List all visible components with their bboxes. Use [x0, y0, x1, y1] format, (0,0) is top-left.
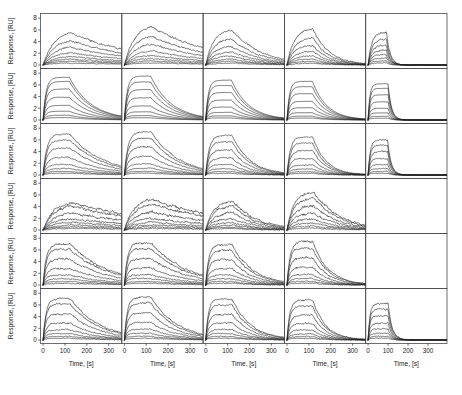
panel-r3-c1: [41, 124, 122, 179]
curve-c5: [368, 54, 447, 65]
panel-curves: [43, 203, 122, 231]
panel-curves: [43, 33, 122, 65]
x-axis-col1: 0100200300Time, [s]: [41, 344, 114, 368]
panel-frame: [284, 124, 365, 179]
x-tick-label: 100: [222, 347, 233, 354]
y-tick-label: 4: [33, 313, 37, 320]
x-tick-label: 0: [204, 347, 208, 354]
curve-c2: [124, 82, 203, 120]
x-axis-title: Time, [s]: [394, 360, 419, 368]
y-axis-row2: 02468Response, [RU]: [7, 69, 41, 123]
panel-frame: [366, 69, 447, 124]
panel-frame: [366, 234, 447, 289]
curve-c1: [206, 299, 285, 341]
curve-c8: [43, 63, 122, 65]
panel-r5-c1: [41, 234, 122, 289]
y-axis-title: Response, [RU]: [7, 293, 15, 340]
panel-curves: [287, 81, 366, 120]
x-axis-col5: 0100200300Time, [s]: [366, 344, 433, 368]
curve-c4: [368, 322, 447, 340]
panel-frame: [203, 69, 284, 124]
y-tick-label: 6: [33, 301, 37, 308]
y-tick-label: 4: [33, 38, 37, 45]
panel-r5-c2: [122, 234, 203, 289]
panel-frame: [366, 124, 447, 179]
panel-curves: [368, 84, 447, 120]
y-axis-row4: 02468Response, [RU]: [7, 179, 41, 233]
y-axis-row3: 02468Response, [RU]: [7, 124, 41, 178]
y-axis-title: Response, [RU]: [7, 128, 15, 175]
panel-r4-c5: [366, 179, 447, 234]
y-tick-label: 2: [33, 160, 37, 167]
y-tick-label: 4: [33, 258, 37, 265]
curve-c3: [287, 314, 366, 340]
y-tick-label: 8: [33, 179, 37, 186]
panel-r3-c5: [366, 124, 447, 179]
y-tick-label: 2: [33, 105, 37, 112]
panel-curves: [124, 243, 203, 286]
curve-c8: [368, 338, 447, 340]
curve-c2: [368, 88, 447, 120]
panel-r3-c2: [122, 124, 203, 179]
panel-curves: [124, 131, 203, 175]
panel-r3-c3: [203, 124, 284, 179]
y-axis-row6: 02468Response, [RU]: [7, 289, 41, 343]
curve-c2: [43, 303, 122, 340]
curve-c1: [368, 32, 447, 66]
y-tick-label: 2: [33, 50, 37, 57]
curve-c2: [287, 247, 366, 285]
panel-curves: [206, 30, 285, 65]
panel-r1-c4: [284, 14, 365, 69]
y-tick-label: 6: [33, 246, 37, 253]
panel-curves: [124, 296, 203, 340]
y-tick-label: 0: [33, 336, 37, 343]
curve-c2: [287, 305, 366, 340]
y-axis-title: Response, [RU]: [7, 73, 15, 120]
x-axis-title: Time, [s]: [231, 360, 256, 368]
y-tick-label: 0: [33, 61, 37, 68]
y-axis-title: Response, [RU]: [7, 183, 15, 230]
y-axis-title: Response, [RU]: [7, 18, 15, 65]
x-tick-label: 300: [185, 347, 196, 354]
panel-r6-c4: [284, 289, 365, 344]
panel-r2-c1: [41, 69, 122, 124]
curve-c2: [206, 85, 285, 120]
curve-c4: [43, 157, 122, 176]
y-tick-label: 0: [33, 281, 37, 288]
curve-c2: [206, 249, 285, 285]
x-tick-label: 300: [266, 347, 277, 354]
panel-r5-c3: [203, 234, 284, 289]
panel-curves: [368, 139, 447, 175]
x-tick-label: 100: [60, 347, 71, 354]
panel-r1-c2: [122, 14, 203, 69]
panel-curves: [43, 134, 122, 176]
y-axis-row1: 02468Response, [RU]: [7, 14, 41, 68]
curve-c4: [43, 97, 122, 120]
x-tick-label: 200: [325, 347, 336, 354]
y-tick-label: 4: [33, 203, 37, 210]
y-tick-label: 8: [33, 234, 37, 241]
panel-curves: [124, 26, 203, 65]
y-tick-label: 0: [33, 116, 37, 123]
panel-frame: [203, 289, 284, 344]
curve-c2: [43, 81, 122, 120]
x-tick-label: 200: [81, 347, 92, 354]
y-tick-label: 2: [33, 215, 37, 222]
panel-r5-c5: [366, 234, 447, 289]
x-tick-label: 200: [403, 347, 414, 354]
y-tick-label: 6: [33, 26, 37, 33]
panel-curves: [287, 299, 366, 340]
x-tick-label: 200: [163, 347, 174, 354]
curve-c4: [124, 98, 203, 120]
panel-r4-c3: [203, 179, 284, 234]
curve-c8: [368, 118, 447, 120]
panel-curves: [368, 303, 447, 341]
panel-r6-c1: [41, 289, 122, 344]
y-tick-label: 4: [33, 148, 37, 155]
curve-c2: [124, 36, 203, 65]
y-tick-label: 2: [33, 270, 37, 277]
sensorgram-figure: 02468Response, [RU]02468Response, [RU]02…: [0, 0, 462, 395]
x-tick-label: 0: [123, 347, 127, 354]
x-tick-label: 0: [366, 347, 370, 354]
panel-curves: [206, 80, 285, 120]
